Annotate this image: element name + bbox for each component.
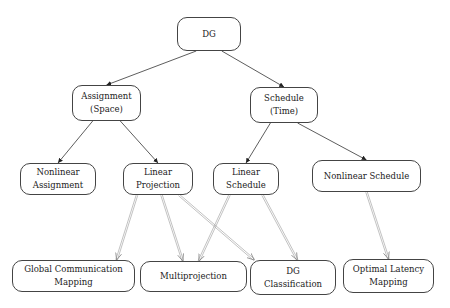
arrowhead-icon: [263, 195, 298, 260]
node-optimal-latency: Optimal Latency Mapping: [343, 259, 434, 293]
edge-assignment-to-linear_projection: [120, 121, 158, 163]
edge-nonlinear_schedule-to-optimal_latency: [366, 192, 388, 259]
edge-linear_projection-to-global_comm: [116, 195, 136, 260]
arrowhead-icon: [162, 195, 183, 261]
edge-linear_projection-to-global_comm: [117, 195, 137, 260]
edge-linear_schedule-to-multiprojection: [198, 195, 229, 261]
edge-linear_projection-to-dg_classification: [180, 194, 255, 259]
node-assignment: Assignment (Space): [72, 85, 141, 121]
node-dg: DG: [177, 17, 241, 51]
node-nonlinear-assignment: Nonlinear Assignment: [20, 163, 96, 195]
edge-schedule-to-nonlinear_schedule: [298, 123, 367, 160]
edge-dg-to-assignment: [107, 51, 197, 85]
edge-nonlinear_schedule-to-optimal_latency: [367, 192, 389, 259]
node-global-comm: Global Communication Mapping: [12, 260, 135, 292]
node-schedule: Schedule (Time): [250, 87, 318, 123]
arrowhead-icon: [199, 195, 230, 261]
edge-dg-to-schedule: [222, 51, 284, 87]
arrowhead-icon: [179, 195, 254, 260]
edge-linear_schedule-to-dg_classification: [263, 195, 298, 260]
node-linear-projection: Linear Projection: [123, 163, 193, 195]
edge-linear_schedule-to-dg_classification: [262, 195, 297, 260]
edge-schedule-to-linear_schedule: [246, 123, 270, 163]
edge-assignment-to-nonlinear_assignment: [58, 121, 93, 163]
edge-linear_projection-to-multiprojection: [162, 195, 183, 261]
node-nonlinear-schedule: Nonlinear Schedule: [312, 160, 421, 192]
node-multiprojection: Multiprojection: [140, 261, 247, 292]
edge-linear_projection-to-multiprojection: [161, 195, 182, 261]
arrowhead-icon: [367, 192, 389, 259]
edge-linear_schedule-to-multiprojection: [200, 195, 231, 261]
node-dg-classification: DG Classification: [250, 260, 336, 295]
node-linear-schedule: Linear Schedule: [213, 163, 279, 195]
figure-caption-clipped: [80, 300, 420, 308]
arrowhead-icon: [117, 195, 137, 260]
edge-linear_projection-to-dg_classification: [178, 196, 253, 261]
